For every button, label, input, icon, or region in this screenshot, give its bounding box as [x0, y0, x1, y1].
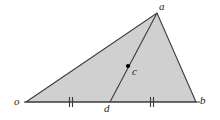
vertex-label-a: a — [159, 1, 165, 12]
geometry-figure: o a b d c — [0, 0, 220, 120]
point-label-c: c — [132, 66, 137, 77]
vertex-label-b: b — [200, 95, 206, 106]
figure-canvas — [0, 0, 220, 120]
vertex-label-d: d — [104, 103, 110, 114]
vertex-label-o: o — [14, 96, 20, 107]
point-marker-c — [126, 64, 130, 68]
triangle-oab — [26, 13, 196, 102]
